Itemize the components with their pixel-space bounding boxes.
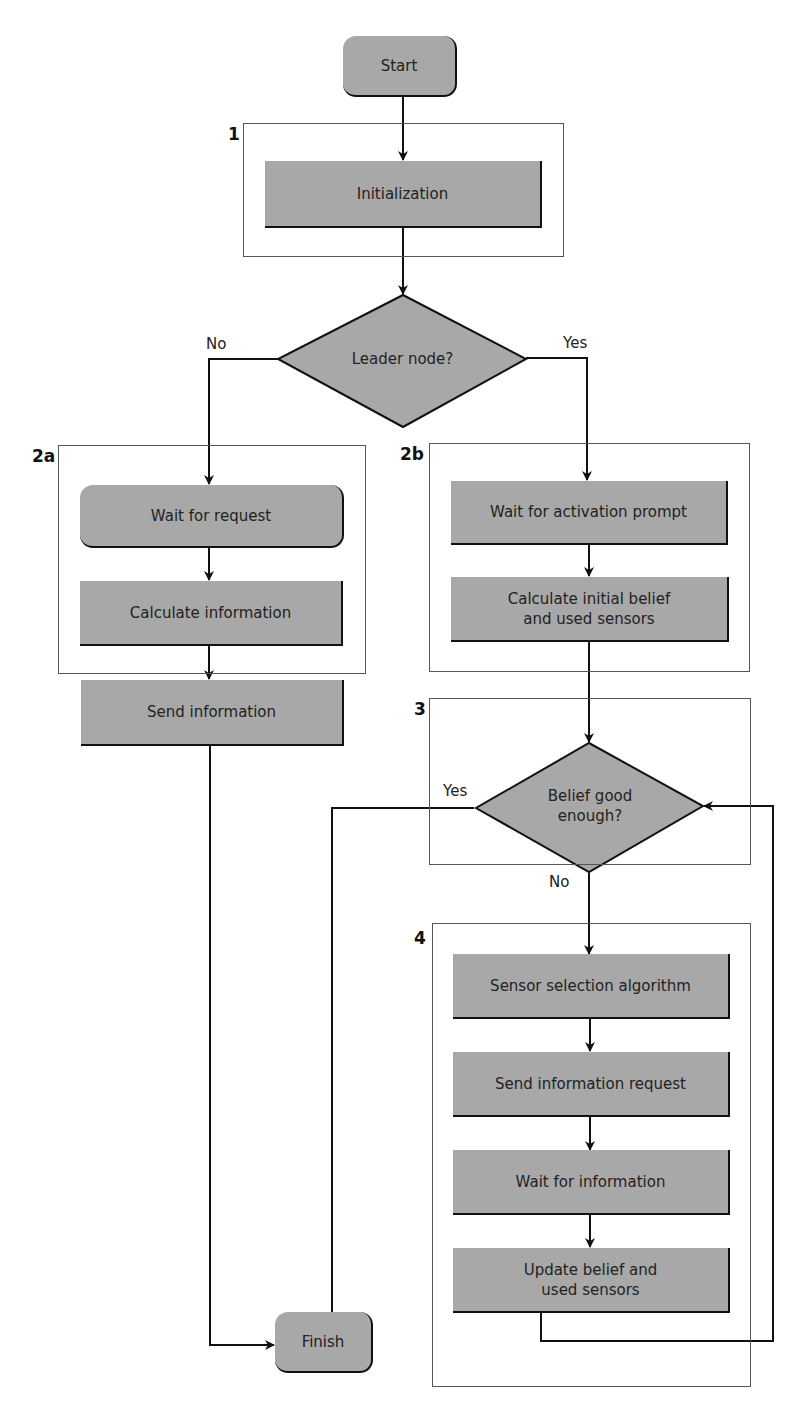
start-label: Start [381, 56, 418, 76]
start-terminal: Start [343, 36, 457, 97]
wait-for-activation-node: Wait for activation prompt [451, 481, 728, 545]
group-2b-label: 2b [400, 444, 424, 464]
update-belief-node: Update belief and used sensors [453, 1248, 730, 1313]
send-information-label: Send information [147, 702, 276, 722]
leader-no-label: No [206, 335, 226, 353]
finish-label: Finish [302, 1332, 345, 1352]
wait-for-request-label: Wait for request [151, 506, 271, 526]
calculate-information-node: Calculate information [80, 581, 343, 646]
update-belief-label-line1: Update belief and [524, 1260, 658, 1280]
group-3-belief-check [429, 698, 751, 865]
wait-for-information-node: Wait for information [453, 1150, 730, 1215]
wait-for-activation-label: Wait for activation prompt [490, 502, 687, 522]
wait-for-request-node: Wait for request [80, 485, 344, 548]
leader-node-label: Leader node? [300, 349, 505, 369]
group-1-label: 1 [228, 124, 240, 144]
send-information-node: Send information [81, 680, 344, 746]
leader-yes-label: Yes [563, 334, 587, 352]
calculate-initial-belief-node: Calculate initial belief and used sensor… [451, 577, 729, 642]
belief-yes-label: Yes [443, 782, 467, 800]
belief-good-enough-label: Belief good enough? [510, 786, 670, 826]
calculate-initial-belief-label-line1: Calculate initial belief [508, 589, 670, 609]
belief-no-label: No [549, 873, 569, 891]
group-3-label: 3 [414, 699, 426, 719]
calculate-information-label: Calculate information [130, 603, 291, 623]
wait-for-information-label: Wait for information [516, 1172, 666, 1192]
sensor-selection-label: Sensor selection algorithm [490, 976, 691, 996]
finish-terminal: Finish [275, 1312, 373, 1373]
belief-label-line2: enough? [510, 806, 670, 826]
initialization-node: Initialization [265, 161, 542, 228]
update-belief-label-line2: used sensors [541, 1280, 639, 1300]
initialization-label: Initialization [357, 184, 448, 204]
belief-label-line1: Belief good [510, 786, 670, 806]
group-4-label: 4 [414, 928, 426, 948]
send-information-request-node: Send information request [453, 1052, 730, 1117]
calculate-initial-belief-label-line2: and used sensors [523, 609, 654, 629]
group-2a-label: 2a [32, 446, 55, 466]
send-information-request-label: Send information request [495, 1074, 686, 1094]
sensor-selection-node: Sensor selection algorithm [453, 954, 730, 1019]
